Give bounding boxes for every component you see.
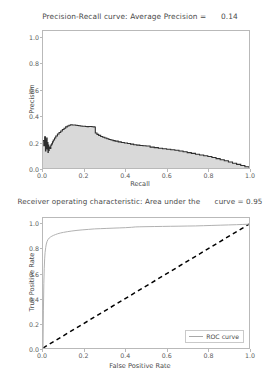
precision-recall-panel: Precision-Recall curve: Average Precisio…	[0, 0, 280, 190]
precision-recall-xlabel: Recall	[0, 180, 280, 188]
y-tick-mark	[40, 274, 43, 275]
x-tick-mark	[42, 349, 43, 352]
precision-recall-title: Precision-Recall curve: Average Precisio…	[0, 12, 280, 21]
y-tick-label: 1.0	[29, 220, 39, 227]
roc-legend-label: ROC curve	[206, 333, 239, 340]
x-tick-mark	[208, 349, 209, 352]
x-tick-mark	[167, 349, 168, 352]
precision-recall-axes	[42, 30, 250, 169]
x-tick-label: 0.2	[79, 352, 89, 359]
y-axis-label: True Positive Rate	[28, 232, 36, 332]
y-tick-mark	[40, 90, 43, 91]
y-tick-mark	[40, 37, 43, 38]
x-tick-mark	[250, 349, 251, 352]
x-tick-label: 0.0	[37, 352, 47, 359]
x-tick-label: 0.4	[120, 172, 130, 179]
x-tick-label: 1.0	[245, 172, 255, 179]
y-tick-mark	[40, 299, 43, 300]
y-tick-mark	[40, 143, 43, 144]
roc-title: Receiver operating characteristic: Area …	[0, 197, 280, 206]
x-tick-mark	[208, 169, 209, 172]
roc-axes: ROC curve	[42, 217, 250, 349]
x-tick-label: 0.2	[79, 172, 89, 179]
y-tick-label: 1.0	[29, 33, 39, 40]
x-tick-mark	[167, 169, 168, 172]
x-tick-mark	[125, 349, 126, 352]
roc-panel: Receiver operating characteristic: Area …	[0, 190, 280, 374]
precision-recall-curve-svg	[43, 31, 249, 168]
y-tick-mark	[40, 63, 43, 64]
roc-legend-line-icon	[189, 336, 203, 337]
y-tick-mark	[40, 116, 43, 117]
y-tick-mark	[40, 324, 43, 325]
x-tick-mark	[250, 169, 251, 172]
x-tick-label: 0.8	[203, 172, 213, 179]
y-tick-mark	[40, 223, 43, 224]
roc-plot-area	[43, 218, 249, 348]
x-tick-label: 0.0	[37, 172, 47, 179]
x-tick-mark	[42, 169, 43, 172]
roc-legend[interactable]: ROC curve	[185, 330, 244, 343]
y-tick-mark	[40, 248, 43, 249]
roc-xlabel: False Positive Rate	[0, 362, 280, 370]
x-tick-label: 0.8	[203, 352, 213, 359]
x-tick-mark	[125, 169, 126, 172]
y-axis-label: Precision	[28, 49, 36, 149]
x-tick-label: 1.0	[245, 352, 255, 359]
x-tick-label: 0.4	[120, 352, 130, 359]
x-tick-label: 0.6	[162, 352, 172, 359]
matplotlib-figure: Precision-Recall curve: Average Precisio…	[0, 0, 280, 374]
precision-recall-plot-area	[43, 31, 249, 168]
x-tick-mark	[84, 349, 85, 352]
roc-curve-svg	[43, 218, 249, 348]
x-tick-label: 0.6	[162, 172, 172, 179]
x-tick-mark	[84, 169, 85, 172]
